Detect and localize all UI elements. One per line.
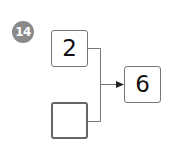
answer-input-box[interactable] bbox=[51, 102, 88, 139]
result-box: 6 bbox=[124, 66, 161, 103]
input-box-first: 2 bbox=[51, 30, 88, 67]
arrow-head-icon bbox=[116, 81, 124, 88]
